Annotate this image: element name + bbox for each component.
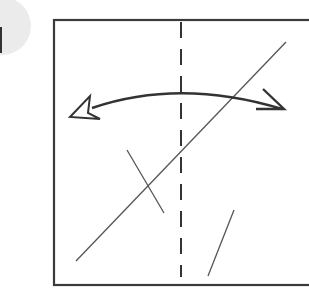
step-number-glyph	[0, 27, 2, 53]
step-badge	[0, 0, 31, 55]
step-badge-circle	[0, 0, 31, 55]
fold-diagram	[0, 0, 309, 302]
